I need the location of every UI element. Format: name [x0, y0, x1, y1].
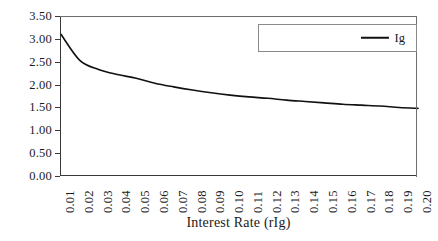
chart-figure: 0.000.501.001.502.002.503.003.50 Ig 0.01… [0, 0, 438, 241]
chart-legend: Ig [258, 24, 417, 52]
y-axis-tick-label: 3.50 [0, 10, 52, 23]
x-axis-title: Interest Rate (rIg) [60, 216, 417, 230]
y-axis-tick-label: 0.50 [0, 147, 52, 160]
y-axis-tick-label: 2.00 [0, 78, 52, 91]
y-axis-tick-label: 0.00 [0, 170, 52, 183]
x-axis-tick-label: 0.01 [65, 179, 75, 213]
legend-item-label: Ig [395, 32, 405, 45]
x-axis-tick-label: 0.17 [366, 179, 376, 213]
x-axis-tick-label: 0.09 [215, 179, 225, 213]
x-axis-tick-label: 0.03 [103, 179, 113, 213]
x-axis-tick-label: 0.10 [234, 179, 244, 213]
y-axis-tick-label: 1.00 [0, 124, 52, 137]
x-axis-tick-label: 0.18 [384, 179, 394, 213]
y-axis-tick-label: 1.50 [0, 101, 52, 114]
x-axis-tick-label: 0.14 [309, 179, 319, 213]
x-axis-tick-label: 0.05 [140, 179, 150, 213]
x-axis-tick-label: 0.16 [347, 179, 357, 213]
x-axis-tick-label: 0.19 [403, 179, 413, 213]
legend-item-ig: Ig [361, 32, 405, 45]
x-axis-tick-label: 0.20 [422, 179, 432, 213]
x-axis-tick-labels: 0.010.020.030.040.050.060.070.080.090.10… [60, 179, 417, 211]
y-axis-tick-labels: 0.000.501.001.502.002.503.003.50 [0, 16, 52, 176]
x-axis-tick-label: 0.15 [328, 179, 338, 213]
x-axis-tick-label: 0.13 [290, 179, 300, 213]
x-axis-tick-label: 0.08 [197, 179, 207, 213]
x-axis-tick-label: 0.07 [178, 179, 188, 213]
x-axis-tick-label: 0.04 [121, 179, 131, 213]
x-axis-tick-label: 0.12 [272, 179, 282, 213]
legend-line-swatch-icon [361, 37, 389, 39]
x-axis-tick-label: 0.06 [159, 179, 169, 213]
plot-top-border [60, 16, 417, 17]
y-axis-tick-label: 3.00 [0, 33, 52, 46]
x-axis-tick-label: 0.11 [253, 179, 263, 213]
y-axis-tick-mark [55, 176, 60, 177]
x-axis-tick-label: 0.02 [84, 179, 94, 213]
y-axis-tick-label: 2.50 [0, 55, 52, 68]
